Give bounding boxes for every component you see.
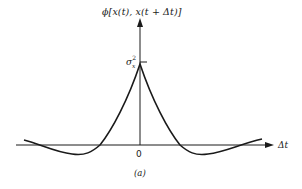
sigma-superscript: 2 [132,54,136,61]
autocorrelation-diagram: ϕ[x(t), x(t + Δt)] σ2x 0 Δt (a) [0,0,302,189]
peak-variance-label: σ2x [126,56,139,69]
y-axis-label: ϕ[x(t), x(t + Δt)] [102,7,182,17]
sigma-subscript: x [132,62,135,69]
figure-caption: (a) [134,169,146,178]
autocorrelation-curve [24,64,262,155]
x-axis-arrow-icon [265,142,274,148]
origin-label: 0 [136,150,142,159]
x-axis-label: Δt [278,141,288,150]
y-axis-arrow-icon [137,18,143,27]
diagram-canvas [0,0,302,189]
